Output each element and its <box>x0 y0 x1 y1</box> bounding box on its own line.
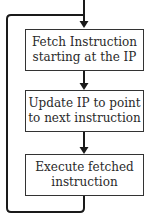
step-fetch-instruction: Fetch Instruction starting at the IP <box>25 29 144 71</box>
step-label-line1: Fetch Instruction <box>32 35 137 50</box>
step-label-line2: starting at the IP <box>33 50 137 65</box>
step-execute-instruction: Execute fetched instruction <box>25 154 144 196</box>
arrowhead-icon <box>80 83 89 90</box>
step-label-line2: instruction <box>51 175 117 190</box>
step-label-line1: Update IP to point <box>28 96 140 111</box>
step-label-line2: to next instruction <box>28 111 140 126</box>
entry-arrowhead-icon <box>80 21 89 28</box>
arrowhead-icon <box>80 147 89 154</box>
step-update-ip: Update IP to point to next instruction <box>25 90 144 132</box>
step-label-line1: Execute fetched <box>35 160 133 175</box>
